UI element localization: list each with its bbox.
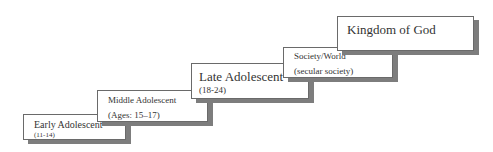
step-title: Late Adolescent [199,69,283,85]
step-title: Kingdom of God [347,22,436,38]
step-subtitle: (11-14) [34,131,55,139]
step-title: Early Adolescent [34,119,103,130]
step-title: Society/World [294,51,346,61]
step-kingdom-of-god: Kingdom of God [337,16,474,51]
step-society-world: Society/World (secular society) [283,47,393,78]
step-subtitle: (18-24) [199,85,226,95]
step-subtitle: (Ages: 15–17) [108,110,160,120]
step-subtitle: (secular society) [294,66,353,76]
step-title: Middle Adolescent [108,95,176,105]
